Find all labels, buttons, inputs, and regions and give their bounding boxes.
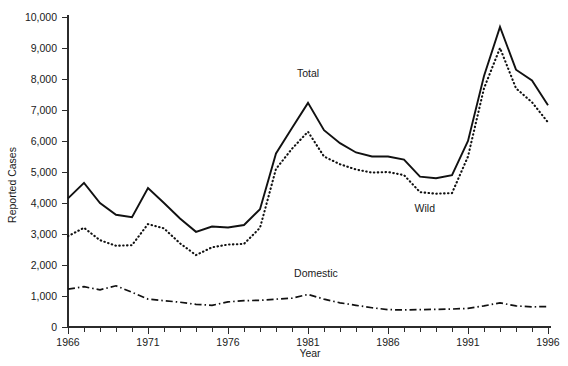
y-tick-label: 0 — [51, 321, 57, 333]
line-chart-figure: 01,0002,0003,0004,0005,0006,0007,0008,00… — [0, 0, 568, 366]
y-tick-label: 8,000 — [31, 73, 57, 85]
x-tick-label: 1976 — [216, 336, 240, 348]
x-tick-label: 1991 — [456, 336, 480, 348]
y-tick-label: 6,000 — [31, 135, 57, 147]
y-tick-label: 10,000 — [25, 11, 57, 23]
y-tick-label: 5,000 — [31, 166, 57, 178]
total-label: Total — [297, 67, 319, 79]
y-tick-label: 1,000 — [31, 290, 57, 302]
chart-container: 01,0002,0003,0004,0005,0006,0007,0008,00… — [0, 0, 568, 366]
y-tick-label: 2,000 — [31, 259, 57, 271]
x-tick-label: 1986 — [376, 336, 400, 348]
y-tick-label: 7,000 — [31, 104, 57, 116]
domestic-label: Domestic — [294, 267, 338, 279]
y-tick-label: 9,000 — [31, 42, 57, 54]
x-tick-label: 1971 — [136, 336, 160, 348]
y-tick-label: 4,000 — [31, 197, 57, 209]
x-axis-title: Year — [299, 347, 321, 359]
y-axis-title: Reported Cases — [6, 147, 18, 223]
wild-label: Wild — [415, 202, 436, 214]
x-tick-label: 1966 — [56, 336, 80, 348]
x-tick-label: 1996 — [536, 336, 560, 348]
y-tick-label: 3,000 — [31, 228, 57, 240]
